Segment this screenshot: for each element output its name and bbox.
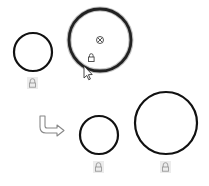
circle-small-after[interactable] <box>80 116 118 154</box>
diagram-canvas <box>0 0 209 186</box>
circled-x-icon <box>97 37 104 44</box>
lock-icon <box>160 161 171 173</box>
lock-icon <box>89 54 95 62</box>
lock-icon <box>93 161 104 173</box>
lock-icon <box>27 77 38 89</box>
bent-arrow-right-icon <box>40 116 64 136</box>
circle-small-before[interactable] <box>14 33 52 71</box>
circle-large-after[interactable] <box>135 92 197 154</box>
